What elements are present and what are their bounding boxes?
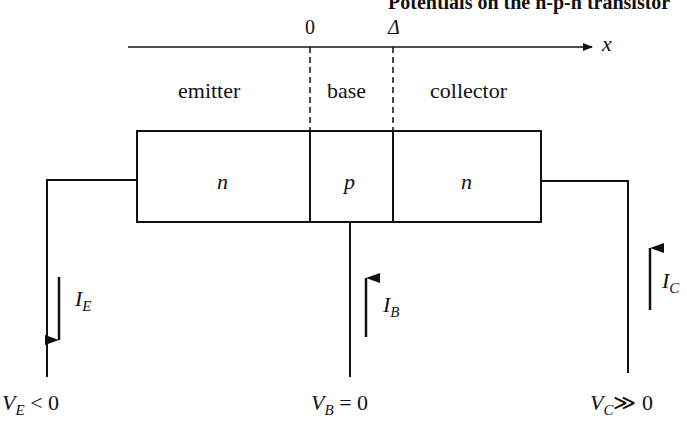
axis-tick-delta: Δ xyxy=(388,17,400,37)
doping-base: p xyxy=(344,171,355,193)
figure-title: Potentials on the n-p-n transistor xyxy=(388,0,670,12)
region-label-emitter: emitter xyxy=(178,80,240,102)
current-label-emitter: IE xyxy=(75,288,92,310)
axis-label-x: x xyxy=(602,33,612,55)
collector-lead xyxy=(541,181,628,373)
current-label-base: IB xyxy=(383,294,400,316)
current-label-collector: IC xyxy=(662,270,679,292)
voltage-label-collector: VC≫ 0 xyxy=(590,392,653,414)
doping-collector: n xyxy=(461,171,472,193)
axis-tick-0: 0 xyxy=(305,17,315,37)
region-label-collector: collector xyxy=(430,80,507,102)
transistor-diagram xyxy=(0,0,687,428)
voltage-label-base: VB = 0 xyxy=(311,392,368,414)
transistor-body xyxy=(137,131,541,222)
doping-emitter: n xyxy=(217,171,228,193)
emitter-lead xyxy=(47,180,137,377)
voltage-label-emitter: VE < 0 xyxy=(2,392,59,414)
region-label-base: base xyxy=(327,80,366,102)
